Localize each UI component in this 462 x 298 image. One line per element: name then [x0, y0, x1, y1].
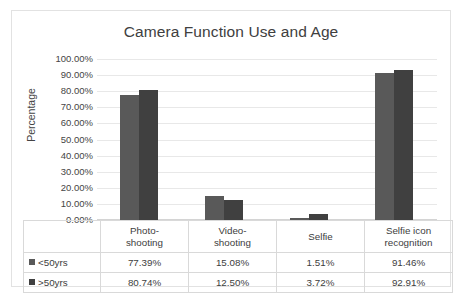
- bar-group-2: [267, 59, 352, 220]
- table-header-line: shooting: [102, 237, 187, 249]
- y-axis-tick-30: 30.00%: [26, 167, 93, 177]
- table-row-series-2: >50yrs 80.74%12.50%3.72%92.91%: [24, 273, 453, 293]
- bar-layer: [97, 59, 437, 220]
- y-axis-tick-50: 50.00%: [26, 135, 93, 145]
- bar-1-series-0[interactable]: [205, 196, 224, 220]
- bar-3-series-1[interactable]: [394, 70, 413, 220]
- y-axis-tick-labels: 100.00%90.00%80.00%70.00%60.00%50.00%40.…: [26, 59, 93, 220]
- legend-swatch-series-2: [29, 279, 35, 285]
- table-header-cell-3: Selfie iconrecognition: [365, 221, 453, 253]
- y-axis-tick-40: 40.00%: [26, 151, 93, 161]
- y-axis-tick-60: 60.00%: [26, 119, 93, 129]
- table-cell-series-2-col-0: 80.74%: [101, 273, 189, 293]
- legend-entry-series-2: >50yrs: [24, 273, 101, 293]
- bar-0-series-0[interactable]: [120, 95, 139, 220]
- legend-swatch-series-1: [29, 259, 35, 265]
- table-cell-series-2-col-2: 3.72%: [277, 273, 365, 293]
- table-header-line: Video-: [190, 225, 275, 237]
- y-axis-tick-20: 20.00%: [26, 183, 93, 193]
- y-axis-tick-90: 90.00%: [26, 70, 93, 80]
- table-row-series-1: <50yrs 77.39%15.08%1.51%91.46%: [24, 253, 453, 273]
- bar-group-3: [352, 59, 437, 220]
- table-header-line: Selfie icon: [366, 225, 451, 237]
- plot-area: [97, 59, 437, 220]
- y-axis-tick-10: 10.00%: [26, 199, 93, 209]
- table-row-header: Photo-shootingVideo-shootingSelfieSelfie…: [24, 221, 453, 253]
- y-axis-tick-80: 80.00%: [26, 86, 93, 96]
- bar-group-1: [182, 59, 267, 220]
- legend-label-series-2: >50yrs: [38, 277, 68, 288]
- table-header-cell-2: Selfie: [277, 221, 365, 253]
- table-header-line: Selfie: [278, 231, 363, 243]
- bar-3-series-0[interactable]: [375, 73, 394, 220]
- table-cell-series-1-col-3: 91.46%: [365, 253, 453, 273]
- data-table: Photo-shootingVideo-shootingSelfieSelfie…: [23, 220, 453, 293]
- table-cell-series-1-col-2: 1.51%: [277, 253, 365, 273]
- table-header-line: recognition: [366, 237, 451, 249]
- table-cell-series-1-col-0: 77.39%: [101, 253, 189, 273]
- y-axis-tick-100: 100.00%: [26, 54, 93, 64]
- table-header-line: Photo-: [102, 225, 187, 237]
- table-cell-series-1-col-1: 15.08%: [189, 253, 277, 273]
- y-axis-tick-70: 70.00%: [26, 103, 93, 113]
- table-corner-cell: [24, 221, 101, 253]
- chart-title: Camera Function Use and Age: [12, 23, 450, 41]
- bar-1-series-1[interactable]: [224, 200, 243, 220]
- bar-0-series-1[interactable]: [139, 90, 158, 220]
- table-header-line: shooting: [190, 237, 275, 249]
- chart-frame: Camera Function Use and Age Percentage 1…: [11, 10, 451, 287]
- legend-entry-series-1: <50yrs: [24, 253, 101, 273]
- table-cell-series-2-col-3: 92.91%: [365, 273, 453, 293]
- table-cell-series-2-col-1: 12.50%: [189, 273, 277, 293]
- table-header-cell-0: Photo-shooting: [101, 221, 189, 253]
- bar-group-0: [97, 59, 182, 220]
- legend-label-series-1: <50yrs: [38, 257, 68, 268]
- table-header-cell-1: Video-shooting: [189, 221, 277, 253]
